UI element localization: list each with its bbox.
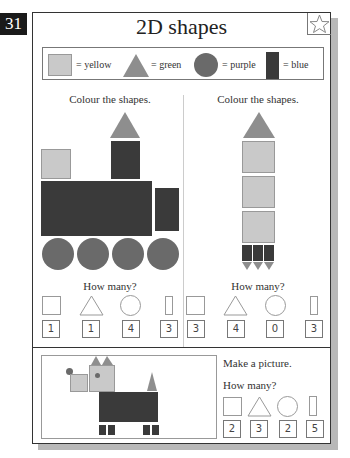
section-separator (32, 347, 331, 348)
key-circle-icon (194, 53, 218, 77)
count-triangle-icon (223, 295, 248, 316)
count-rectangle-icon (309, 396, 317, 416)
right-instruction: Colour the shapes. (186, 93, 330, 105)
rocket-square-2 (242, 176, 275, 208)
rocket-rect-2 (253, 245, 263, 261)
count-square-icon (223, 397, 242, 416)
train-cab (155, 188, 179, 231)
train-triangle (109, 111, 141, 139)
answer-circles[interactable]: 4 (122, 320, 140, 338)
count-circle-icon (120, 295, 141, 316)
key-label-green: = green (151, 59, 181, 70)
key-label-yellow: = yellow (76, 59, 111, 70)
answer-rectangles[interactable]: 3 (160, 320, 178, 338)
answer-circles[interactable]: 0 (266, 320, 284, 338)
train-body (41, 181, 152, 236)
count-circle-icon (265, 295, 286, 316)
rocket-flames (242, 262, 275, 271)
left-how-many: How many? (40, 280, 180, 292)
right-how-many: How many? (186, 280, 330, 292)
key-rectangle-icon (266, 52, 279, 79)
answer-triangles[interactable]: 1 (82, 320, 100, 338)
train-wheel-4 (147, 238, 179, 270)
dog-tail (146, 372, 158, 392)
answer-rectangles[interactable]: 5 (306, 420, 324, 438)
key-label-purple: = purple (222, 59, 256, 70)
dog-leg-1 (99, 425, 106, 435)
page-title: 2D shapes (32, 14, 331, 40)
rocket-rect-3 (264, 245, 274, 261)
left-instruction: Colour the shapes. (40, 93, 180, 105)
answer-squares[interactable]: 3 (187, 320, 205, 338)
panel-divider (183, 95, 184, 348)
count-circle-icon (277, 396, 298, 417)
rocket-rect-1 (242, 245, 252, 261)
dog-leg-4 (152, 425, 159, 435)
train-wheel-1 (42, 238, 74, 270)
train-wheel-2 (77, 238, 109, 270)
key-triangle-icon (122, 53, 150, 78)
dog-leg-2 (108, 425, 115, 435)
dog-snout (70, 374, 88, 392)
count-triangle-icon (79, 295, 104, 316)
count-rectangle-icon (165, 296, 173, 315)
answer-triangles[interactable]: 4 (227, 320, 245, 338)
count-rectangle-icon (310, 296, 318, 315)
answer-triangles[interactable]: 3 (250, 420, 268, 438)
train-wheel-3 (112, 238, 144, 270)
answer-rectangles[interactable]: 3 (305, 320, 323, 338)
dog-body (99, 392, 158, 422)
dog-eye (95, 373, 100, 378)
answer-circles[interactable]: 2 (279, 420, 297, 438)
bottom-instruction: Make a picture. (223, 357, 292, 369)
train-chimney (111, 141, 140, 179)
answer-squares[interactable]: 1 (42, 320, 60, 338)
rocket-triangle (242, 111, 276, 139)
train-square (41, 149, 71, 179)
star-icon (307, 13, 331, 35)
dog-leg-3 (143, 425, 150, 435)
key-label-blue: = blue (283, 59, 308, 70)
rocket-square-1 (242, 141, 275, 173)
count-square-icon (186, 296, 205, 315)
rocket-square-3 (242, 211, 275, 243)
count-triangle-icon (247, 396, 272, 417)
page-number: 31 (0, 13, 27, 35)
count-square-icon (42, 296, 61, 315)
dog-head (89, 365, 115, 392)
bottom-how-many: How many? (223, 379, 276, 391)
answer-squares[interactable]: 2 (223, 420, 241, 438)
key-square-icon (48, 54, 72, 76)
